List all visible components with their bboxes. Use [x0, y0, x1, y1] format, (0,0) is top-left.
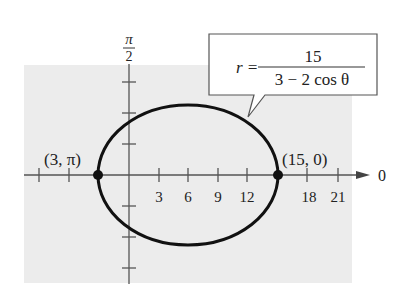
x-tick-label: 6 — [184, 189, 192, 205]
polar-axis-label: 0 — [378, 167, 386, 184]
point-15-0 — [273, 170, 283, 180]
polar-axis-arrow-icon — [356, 171, 370, 179]
x-tick-label: 18 — [302, 189, 317, 205]
equation-denominator: 3 − 2 cos θ — [275, 70, 349, 89]
point-label-15-0: (15, 0) — [282, 150, 327, 169]
x-tick-label: 9 — [214, 189, 222, 205]
point-label-3-pi: (3, π) — [44, 150, 81, 169]
polar-graph: 0 π 2 3 6 9 12 18 21 (3, π) (15, 0) — [0, 0, 402, 296]
x-tick-label: 3 — [155, 189, 163, 205]
x-tick-label: 12 — [240, 189, 255, 205]
point-3-pi — [93, 170, 103, 180]
vertical-axis-label-numerator: π — [125, 31, 133, 47]
equation-lhs: r = — [236, 58, 258, 77]
equation-numerator: 15 — [305, 47, 322, 66]
vertical-axis-label-denominator: 2 — [126, 49, 133, 64]
x-tick-label: 21 — [331, 189, 346, 205]
